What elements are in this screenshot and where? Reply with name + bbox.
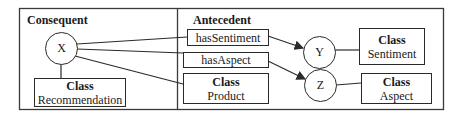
property-has-aspect: hasAspect <box>183 52 269 68</box>
node-y: Y <box>303 36 336 69</box>
property-has-sentiment: hasSentiment <box>187 29 269 46</box>
class-name: Aspect <box>380 89 413 103</box>
property-label: hasAspect <box>201 53 250 67</box>
property-label: hasSentiment <box>196 31 261 45</box>
antecedent-title: Antecedent <box>193 13 251 27</box>
node-y-label: Y <box>315 45 324 60</box>
node-z-label: Z <box>317 78 324 93</box>
class-keyword: Class <box>383 75 410 89</box>
node-x-label: X <box>57 41 66 56</box>
class-name: Sentiment <box>368 47 417 61</box>
node-z: Z <box>304 69 337 102</box>
node-x: X <box>45 32 78 65</box>
class-name: Product <box>207 89 244 103</box>
class-keyword: Class <box>378 33 405 47</box>
class-aspect-box: Class Aspect <box>361 73 432 104</box>
class-product-box: Class Product <box>183 73 269 104</box>
consequent-title: Consequent <box>27 13 88 27</box>
class-name: Recommendation <box>38 93 123 107</box>
class-recommendation-box: Class Recommendation <box>34 78 126 107</box>
class-keyword: Class <box>212 75 239 89</box>
class-sentiment-box: Class Sentiment <box>359 28 425 65</box>
class-keyword: Class <box>66 79 93 93</box>
